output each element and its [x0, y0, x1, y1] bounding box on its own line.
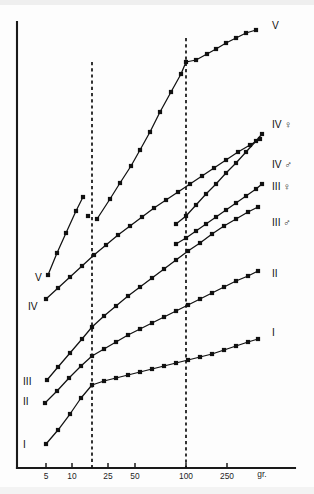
data-point-III-male [114, 304, 118, 308]
series-label-right-V: V [272, 20, 279, 31]
series-label-left-II: II [23, 396, 29, 407]
data-point-I [68, 412, 72, 416]
data-point-V [55, 251, 59, 255]
data-point-I [198, 355, 202, 359]
series-label-left-V: V [35, 272, 42, 283]
data-point-IV-male [44, 297, 48, 301]
data-point-IV-male [56, 286, 60, 290]
axes-group [17, 22, 295, 468]
data-point-II [126, 333, 130, 337]
series-label-right-III-female: III ♀ [272, 181, 291, 192]
x-axis-label-5: 5 [44, 471, 49, 481]
data-point-IV-female [254, 139, 258, 143]
data-point-III-male [210, 232, 214, 236]
data-point-V [148, 130, 152, 134]
data-point-III-male [45, 378, 49, 382]
data-point-III-male [162, 267, 166, 271]
data-point-IV-male [248, 143, 252, 147]
series-label-right-IV-female: IV ♀ [272, 119, 292, 130]
data-point-V [214, 47, 218, 51]
data-point-V [234, 36, 238, 40]
semilog-growth-chart: 5102550100250gr. VVIV ♀IV ♂IVIII ♀III ♂I… [0, 0, 314, 494]
data-point-IV-female [184, 214, 188, 218]
series-label-right-IV-male: IV ♂ [272, 159, 292, 170]
data-point-I [222, 348, 226, 352]
data-point-V [95, 217, 99, 221]
series-label-left-III-male: III [23, 376, 32, 387]
data-point-V [194, 58, 198, 62]
data-point-I [246, 340, 250, 344]
data-point-IV-male [236, 150, 240, 154]
data-point-IV-male [152, 206, 156, 210]
data-point-V [184, 60, 188, 64]
data-point-V [64, 231, 68, 235]
data-point-II [67, 376, 71, 380]
data-point-IV-male [224, 158, 228, 162]
data-point-III-male [138, 285, 142, 289]
data-point-I [186, 358, 190, 362]
data-point-III-male [80, 337, 84, 341]
data-point-II [55, 389, 59, 393]
data-point-IV-male [200, 174, 204, 178]
x-axis-label-250: 250 [220, 471, 234, 481]
data-point-IV-male [140, 215, 144, 219]
series-line-V-seg0 [48, 197, 83, 275]
data-point-IV-male [176, 190, 180, 194]
data-point-IV-male [188, 182, 192, 186]
series-line-II [45, 271, 258, 403]
data-point-I [234, 344, 238, 348]
data-point-II [186, 303, 190, 307]
x-axis-unit-label: gr. [257, 469, 266, 479]
data-point-II [174, 309, 178, 313]
series-line-IV-male [46, 139, 260, 299]
data-point-V [118, 181, 122, 185]
data-point-IV-male [104, 243, 108, 247]
data-point-II [222, 285, 226, 289]
series-label-right-III-male: III ♂ [272, 217, 291, 228]
data-point-IV-female [260, 132, 264, 136]
data-point-III-male [126, 294, 130, 298]
series-label-right-II: II [272, 268, 278, 279]
data-point-V [179, 72, 183, 76]
data-point-III-female [224, 208, 228, 212]
data-point-V [74, 209, 78, 213]
curve-group [45, 30, 262, 444]
data-point-III-male [186, 249, 190, 253]
chart-root: 5102550100250gr. VVIV ♀IV ♂IVIII ♀III ♂I… [0, 0, 314, 494]
data-point-II [198, 297, 202, 301]
data-point-I [114, 376, 118, 380]
data-point-III-male [56, 365, 60, 369]
data-point-V [138, 148, 142, 152]
data-point-II [246, 274, 250, 278]
x-axis-label-25: 25 [103, 471, 113, 481]
data-point-IV-female [194, 203, 198, 207]
data-point-III-male [102, 314, 106, 318]
data-point-IV-male [128, 224, 132, 228]
data-point-I [256, 337, 260, 341]
data-point-group [43, 28, 264, 446]
data-point-II [114, 340, 118, 344]
data-point-V [129, 164, 133, 168]
data-point-IV-male [116, 233, 120, 237]
data-point-III-female [214, 215, 218, 219]
data-point-V [108, 197, 112, 201]
data-point-III-female [260, 182, 264, 186]
series-label-right-I: I [272, 327, 275, 338]
data-point-II [234, 279, 238, 283]
series-line-I [46, 339, 258, 444]
data-point-IV-male [164, 198, 168, 202]
data-point-I [138, 370, 142, 374]
data-point-II [210, 291, 214, 295]
data-point-II [162, 315, 166, 319]
data-point-III-female [244, 194, 248, 198]
data-point-III-male [150, 276, 154, 280]
data-point-V [81, 195, 85, 199]
data-point-I [174, 361, 178, 365]
data-point-II [150, 321, 154, 325]
data-point-IV-female [244, 150, 248, 154]
data-point-I [44, 442, 48, 446]
data-point-III-female [174, 242, 178, 246]
data-point-III-male [246, 210, 250, 214]
data-point-III-male [234, 217, 238, 221]
data-point-IV-male [258, 137, 262, 141]
